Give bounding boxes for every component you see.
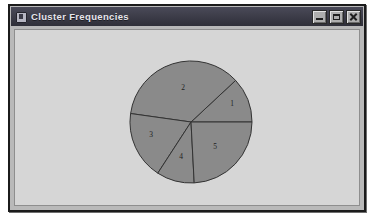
pie-slice-label-3: 3	[149, 130, 153, 139]
chart-window-icon	[15, 11, 26, 22]
maximize-button[interactable]	[329, 10, 344, 24]
application-window: Cluster Frequencies 12345	[8, 4, 366, 212]
pie-slice-label-5: 5	[213, 142, 217, 151]
pie-chart-canvas: 12345	[15, 30, 359, 205]
client-area: 12345	[14, 29, 360, 206]
window-title: Cluster Frequencies	[31, 7, 312, 26]
title-bar[interactable]: Cluster Frequencies	[11, 7, 363, 26]
minimize-button[interactable]	[312, 10, 327, 24]
close-button[interactable]	[346, 10, 361, 24]
screen: Cluster Frequencies 12345	[0, 0, 378, 219]
pie-slice-5[interactable]	[191, 122, 252, 183]
pie-slice-label-2: 2	[181, 83, 185, 92]
window-controls	[312, 10, 361, 24]
pie-chart: 12345	[15, 30, 360, 206]
pie-slice-label-4: 4	[179, 152, 183, 161]
pie-slice-label-1: 1	[230, 99, 234, 108]
